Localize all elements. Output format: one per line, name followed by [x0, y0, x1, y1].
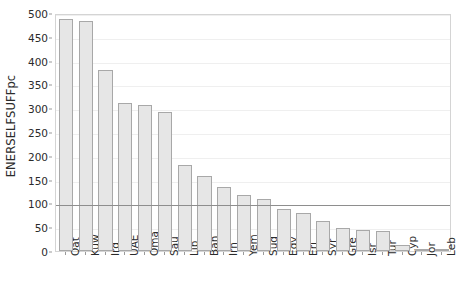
bar-leb: [435, 249, 449, 251]
y-tick-mark: [49, 14, 52, 15]
bar-isr: [356, 230, 370, 251]
y-tick-mark: [49, 252, 52, 253]
y-axis-title-label: ENERSELFSUFFpc: [4, 75, 18, 177]
bar-eri: [296, 213, 310, 251]
y-tick-mark: [49, 85, 52, 86]
y-tick-label: 250: [28, 127, 48, 139]
bar-gre: [336, 228, 350, 251]
bar-sud: [257, 199, 271, 251]
bar-uae: [118, 103, 132, 251]
y-tick-mark: [49, 204, 52, 205]
x-tick-mark: [144, 252, 145, 255]
y-tick-label: 50: [35, 222, 48, 234]
plot-area: [55, 14, 451, 252]
bar-lib: [178, 165, 192, 251]
y-tick-label: 400: [28, 56, 48, 68]
x-tick-mark: [184, 252, 185, 255]
bar-jor: [415, 249, 429, 251]
y-tick-label: 100: [28, 198, 48, 210]
y-tick-label: 350: [28, 79, 48, 91]
x-tick-mark: [283, 252, 284, 255]
x-tick-mark: [382, 252, 383, 255]
bar-yem: [237, 195, 251, 251]
bar-irq: [98, 70, 112, 251]
bar-sau: [158, 112, 172, 251]
bar-syr: [316, 221, 330, 251]
y-tick-label: 500: [28, 8, 48, 20]
y-tick-mark: [49, 156, 52, 157]
x-tick-mark: [303, 252, 304, 255]
bar-chart: ENERSELFSUFFpc 0501001502002503003504004…: [0, 0, 458, 300]
x-tick-mark: [164, 252, 165, 255]
reference-line-100: [56, 205, 450, 206]
x-axis-labels: QatKuwIrqUAEOmaSauLibBahIrnYemSudEgyEriS…: [55, 252, 451, 300]
y-tick-label: 150: [28, 175, 48, 187]
y-tick-label: 200: [28, 151, 48, 163]
bars-layer: [56, 15, 450, 251]
x-tick-mark: [124, 252, 125, 255]
x-tick-mark: [204, 252, 205, 255]
y-axis-title: ENERSELFSUFFpc: [0, 0, 22, 252]
y-tick-mark: [49, 37, 52, 38]
y-tick-label: 450: [28, 32, 48, 44]
x-tick-mark: [322, 252, 323, 255]
x-tick-mark: [441, 252, 442, 255]
y-tick-mark: [49, 61, 52, 62]
y-tick-label: 0: [41, 246, 48, 258]
bar-tur: [376, 231, 390, 251]
y-tick-mark: [49, 180, 52, 181]
x-tick-mark: [85, 252, 86, 255]
x-tick-mark: [243, 252, 244, 255]
y-tick-label: 300: [28, 103, 48, 115]
x-tick-mark: [421, 252, 422, 255]
bar-irn: [217, 187, 231, 251]
bar-cyp: [395, 245, 409, 251]
bar-oma: [138, 105, 152, 251]
bar-qat: [59, 19, 73, 251]
x-tick-mark: [65, 252, 66, 255]
y-tick-mark: [49, 133, 52, 134]
x-tick-mark: [263, 252, 264, 255]
x-tick-mark: [105, 252, 106, 255]
x-tick-mark: [362, 252, 363, 255]
bar-egy: [277, 209, 291, 251]
y-axis-ticks: 050100150200250300350400450500: [22, 8, 52, 260]
y-tick-mark: [49, 228, 52, 229]
x-tick-mark: [342, 252, 343, 255]
x-tick-mark: [402, 252, 403, 255]
y-tick-mark: [49, 109, 52, 110]
bar-kuw: [79, 21, 93, 251]
bar-bah: [197, 176, 211, 251]
x-tick-mark: [223, 252, 224, 255]
